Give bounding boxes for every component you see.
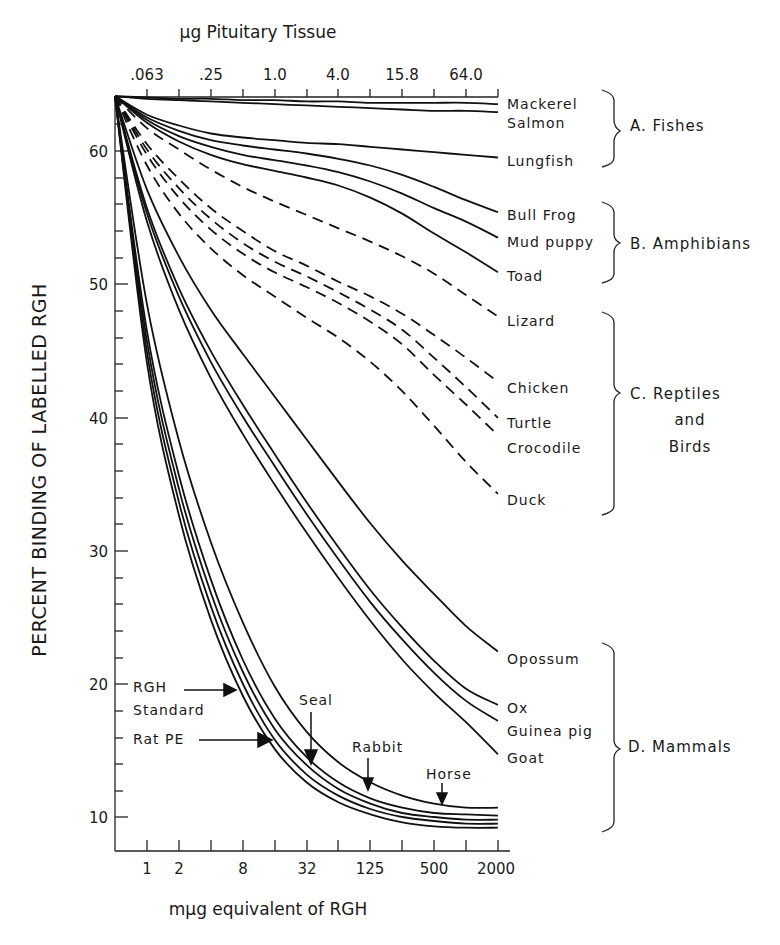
y-axis-title: PERCENT BINDING OF LABELLED RGH: [28, 283, 50, 656]
top-tick-label: 4.0: [326, 66, 350, 84]
label-toad: Toad: [506, 268, 543, 284]
y-tick-label: 40: [89, 410, 108, 428]
x-axis: [115, 840, 510, 851]
top-tick-label: 1.0: [263, 66, 287, 84]
annotation-rat-pe: Rat PE: [133, 731, 184, 747]
curve-goat: [115, 96, 498, 754]
arrow-icon: [199, 733, 272, 747]
y-axis-tick-labels: 60 50 40 30 20 10: [89, 143, 108, 827]
inner-annotations: RGH Standard Rat PE Seal Rabbit Horse: [133, 679, 472, 804]
series-labels: Mackerel Salmon Lungfish Bull Frog Mud p…: [506, 96, 594, 766]
label-bullfrog: Bull Frog: [507, 207, 577, 223]
brace-reptiles: [602, 312, 620, 515]
group-reptiles-and: and: [674, 411, 705, 429]
label-ox: Ox: [507, 700, 528, 716]
y-tick-label: 20: [89, 676, 108, 694]
group-reptiles: C. Reptiles: [630, 385, 721, 403]
curve-bull-frog: [115, 96, 498, 212]
top-tick-label: .25: [199, 66, 223, 84]
curve-mud-puppy: [115, 96, 498, 238]
x-axis-title: mµg equivalent of RGH: [169, 899, 367, 919]
y-tick-label: 50: [89, 276, 108, 294]
x-tick-label: 1: [142, 860, 152, 878]
arrow-icon: [363, 758, 373, 790]
brace-fishes: [602, 90, 620, 167]
curves: [115, 96, 498, 828]
binding-curves-chart: µg Pituitary Tissue .063 .25 1.0 4.0 15.…: [0, 0, 780, 945]
curve-ox: [115, 96, 498, 705]
annotation-horse: Horse: [426, 766, 472, 782]
x-tick-label: 500: [420, 860, 449, 878]
top-tick-label: 64.0: [449, 66, 482, 84]
x-tick-label: 2: [174, 860, 184, 878]
label-guineapig: Guinea pig: [507, 723, 593, 739]
top-tick-label: 15.8: [385, 66, 418, 84]
curve-opossum: [115, 96, 498, 651]
brace-mammals: [602, 643, 620, 832]
top-axis-tick-labels: .063 .25 1.0 4.0 15.8 64.0: [130, 66, 482, 84]
annotation-seal: Seal: [299, 692, 333, 708]
group-fishes: A. Fishes: [630, 117, 705, 135]
annotation-rabbit: Rabbit: [352, 739, 403, 755]
group-mammals: D. Mammals: [628, 738, 732, 756]
y-axis: [115, 97, 128, 851]
group-labels: A. Fishes B. Amphibians C. Reptiles and …: [628, 117, 751, 756]
x-axis-tick-labels: 1 2 8 32 125 500 2000: [142, 860, 515, 878]
group-birds: Birds: [669, 438, 712, 456]
arrow-icon: [184, 684, 236, 696]
label-opossum: Opossum: [507, 651, 580, 667]
group-braces: [602, 90, 620, 832]
y-tick-label: 60: [89, 143, 108, 161]
top-axis-title: µg Pituitary Tissue: [180, 22, 337, 42]
label-turtle: Turtle: [506, 415, 552, 431]
label-goat: Goat: [507, 750, 544, 766]
brace-amphibians: [602, 202, 620, 283]
arrow-icon: [437, 783, 447, 804]
top-tick-label: .063: [130, 66, 163, 84]
annotation-rgh: RGH: [133, 679, 167, 695]
annotation-rgh-standard: Standard: [133, 702, 205, 718]
label-lungfish: Lungfish: [507, 153, 574, 169]
x-tick-label: 125: [356, 860, 385, 878]
label-duck: Duck: [507, 492, 546, 508]
label-salmon: Salmon: [507, 115, 565, 131]
group-amphibians: B. Amphibians: [630, 235, 751, 253]
label-chicken: Chicken: [507, 380, 569, 396]
label-lizard: Lizard: [507, 313, 555, 329]
top-axis: [115, 89, 498, 97]
x-tick-label: 8: [238, 860, 248, 878]
label-mudpuppy: Mud puppy: [507, 234, 594, 250]
x-tick-label: 32: [297, 860, 316, 878]
label-mackerel: Mackerel: [507, 96, 578, 112]
curve-turtle: [115, 96, 498, 418]
y-tick-label: 10: [89, 809, 108, 827]
label-crocodile: Crocodile: [507, 440, 581, 456]
y-tick-label: 30: [89, 543, 108, 561]
x-tick-label: 2000: [477, 860, 515, 878]
